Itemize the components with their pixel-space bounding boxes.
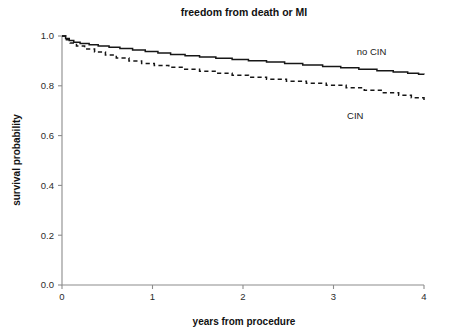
y-tick-label: 1.0 (41, 30, 54, 41)
series-label-cin: CIN (347, 110, 364, 121)
y-tick-label: 0.2 (41, 230, 54, 241)
chart-figure: freedom from death or MI 0.00.20.40.60.8… (0, 0, 459, 334)
chart-title: freedom from death or MI (181, 6, 308, 18)
x-tick-label: 0 (59, 291, 64, 302)
x-axis-ticks: 01234 (59, 285, 426, 302)
x-tick-label: 3 (331, 291, 336, 302)
y-axis-label: survival probability (11, 114, 22, 206)
y-tick-label: 0.4 (41, 180, 54, 191)
axis-lines (62, 36, 424, 285)
x-tick-label: 2 (240, 291, 245, 302)
x-axis-label: years from procedure (193, 316, 296, 327)
series-label-no-cin: no CIN (357, 46, 387, 57)
y-tick-label: 0.6 (41, 130, 54, 141)
survival-plot: freedom from death or MI 0.00.20.40.60.8… (0, 0, 459, 334)
y-axis-ticks: 0.00.20.40.60.81.0 (41, 30, 62, 290)
y-tick-label: 0.0 (41, 279, 54, 290)
x-tick-label: 4 (421, 291, 426, 302)
y-tick-label: 0.8 (41, 80, 54, 91)
x-tick-label: 1 (150, 291, 155, 302)
series-labels: no CINCIN (347, 46, 386, 122)
